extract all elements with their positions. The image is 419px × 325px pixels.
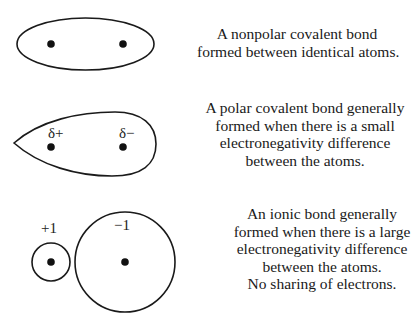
description-line: between the atoms.	[205, 152, 405, 170]
ionic-description: An ionic bond generally formed when ther…	[222, 205, 419, 293]
shared-electron-cloud	[17, 18, 154, 70]
atom-nucleus-left	[47, 40, 55, 48]
description-line: No sharing of electrons.	[222, 275, 419, 293]
description-line: formed when there is a large	[222, 223, 419, 241]
nonpolar-description: A nonpolar covalent bond formed between …	[197, 25, 397, 60]
nonpolar-bond-figure	[17, 18, 154, 70]
description-line: A polar covalent bond generally	[205, 99, 405, 117]
atom-nucleus-partial-positive	[47, 143, 55, 151]
anion-nucleus	[121, 258, 129, 266]
description-line: electronegativity difference	[205, 134, 405, 152]
polar-electron-cloud	[14, 112, 156, 176]
description-line: formed between identical atoms.	[197, 43, 397, 61]
cation-nucleus	[47, 258, 55, 266]
delta-plus-label: δ+	[48, 125, 64, 141]
atom-nucleus-right	[119, 40, 127, 48]
description-line: A nonpolar covalent bond	[197, 25, 397, 43]
polar-description: A polar covalent bond generally formed w…	[205, 99, 405, 169]
description-line: between the atoms.	[222, 258, 419, 276]
atom-nucleus-partial-negative	[119, 143, 127, 151]
delta-minus-label: δ−	[119, 125, 135, 141]
polar-bond-figure: δ+ δ−	[14, 112, 156, 176]
ionic-bond-figure: +1 −1	[32, 212, 175, 312]
anion-charge-label: −1	[114, 217, 130, 233]
description-line: electronegativity difference	[222, 240, 419, 258]
description-line: An ionic bond generally	[222, 205, 419, 223]
cation-charge-label: +1	[41, 220, 57, 236]
description-line: formed when there is a small	[205, 117, 405, 135]
